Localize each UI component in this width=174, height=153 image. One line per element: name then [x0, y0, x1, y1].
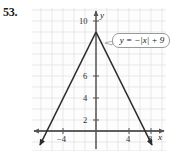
- coordinate-plane: 10 6 4 2 −4 4 8 y x: [32, 8, 166, 151]
- ytick-label-10: 10: [79, 16, 88, 26]
- curve-absolute-value: [32, 8, 166, 151]
- x-axis-label: x: [158, 132, 162, 142]
- problem-number: 53.: [3, 5, 17, 20]
- y-axis-label: y: [100, 10, 104, 20]
- equation-label: y = −|x| + 9: [113, 35, 171, 45]
- figure-container: 53.: [0, 0, 174, 153]
- ytick-label-6: 6: [83, 71, 87, 81]
- equation-callout: y = −|x| + 9: [112, 33, 170, 48]
- ytick-label-2: 2: [83, 115, 87, 125]
- xtick-label-8: 8: [148, 134, 152, 144]
- xtick-label-neg4: −4: [57, 134, 66, 144]
- ytick-label-4: 4: [83, 93, 87, 103]
- xtick-label-4: 4: [126, 134, 130, 144]
